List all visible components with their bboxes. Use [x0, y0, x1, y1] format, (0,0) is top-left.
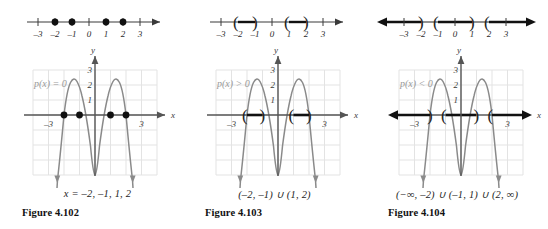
nl-tick-label: 0 [270, 29, 275, 39]
y-tick-label: 3 [87, 65, 93, 75]
nl-tick-label: 2 [304, 29, 309, 39]
nl-tick-label: 3 [320, 29, 326, 39]
x-axis-label: x [536, 110, 541, 120]
graph-y-tick-labels: 1 2 3 [270, 65, 276, 105]
number-line-4-103: ( ) ( ) –3 –2 –1 0 1 2 3 [183, 6, 366, 46]
y-axis-label: y [273, 46, 278, 55]
nl-tick-label: –1 [67, 29, 77, 39]
nl-tick-label: 0 [87, 29, 92, 39]
graph-y-tick-labels: 1 2 3 [87, 65, 93, 105]
y-axis-arrow [275, 56, 282, 64]
left-paren-icon: ( [242, 106, 248, 125]
figure-caption-4-103: Figure 4.103 [183, 207, 388, 218]
curve-right-arrow [313, 176, 319, 184]
number-line-tick-labels: –3 –2 –1 0 1 2 3 [399, 29, 509, 39]
figure-caption-4-102: Figure 4.102 [0, 207, 205, 218]
x-tick-label: 3 [321, 119, 327, 129]
nl-tick-label: 1 [470, 29, 475, 39]
figure-sheet: –3 –2 –1 0 1 2 3 [0, 0, 548, 229]
graph-condition-label: p(x) < 0 [399, 78, 433, 90]
y-tick-label: 2 [271, 80, 276, 90]
right-paren-icon: ) [474, 106, 480, 125]
y-tick-label: 2 [88, 80, 93, 90]
x-tick-label: –3 [409, 119, 420, 129]
nl-tick-label: –1 [250, 29, 260, 39]
graph-condition-label: p(x) > 0 [216, 78, 250, 90]
y-tick-label: 1 [271, 95, 276, 105]
figure-panel-4-103: ( ) ( ) –3 –2 –1 0 1 2 3 [183, 0, 366, 229]
figure-panel-4-104: ) ( ) ( –3 –2 –1 0 1 2 3 [366, 0, 548, 229]
figure-panel-4-102: –3 –2 –1 0 1 2 3 [0, 0, 183, 229]
solution-text-4-103: (–2, –1) ∪ (1, 2) [183, 188, 366, 200]
right-paren-icon: ) [306, 106, 312, 125]
graph-condition-label: p(x) = 0 [33, 78, 67, 90]
nl-tick-label: –2 [416, 29, 427, 39]
y-axis-arrow [458, 56, 465, 64]
nl-tick-label: 0 [453, 29, 458, 39]
y-axis-label: y [90, 46, 95, 55]
curve-left-arrow [420, 176, 426, 184]
number-line-svg-2: ) ( ) ( –3 –2 –1 0 1 2 3 [366, 6, 548, 46]
solution-text-4-102: x = –2, –1, 1, 2 [0, 188, 189, 199]
x-tick-label: –3 [226, 119, 237, 129]
curve-right-arrow [496, 176, 502, 184]
x-axis-label: x [170, 110, 175, 120]
curve-left-arrow [237, 176, 243, 184]
x-tick-label: 3 [504, 119, 510, 129]
graph-4-104: ) ( ) ( x y 1 2 3 –3 3 p(x) < 0 [366, 46, 548, 188]
nl-tick-label: 1 [104, 29, 109, 39]
graph-svg-1: ( ) ( ) x y 1 2 3 –3 3 p(x) > 0 [183, 46, 366, 188]
y-axis-label: y [456, 46, 461, 55]
x-axis-label: x [353, 110, 358, 120]
nl-tick-label: 3 [137, 29, 143, 39]
nl-tick-label: –3 [216, 29, 227, 39]
nl-tick-label: –2 [50, 29, 61, 39]
graph-4-103: ( ) ( ) x y 1 2 3 –3 3 p(x) > 0 [183, 46, 366, 188]
number-line-right-arrow [152, 19, 160, 26]
number-line-4-102: –3 –2 –1 0 1 2 3 [0, 6, 183, 46]
y-axis-arrow [92, 56, 99, 64]
nl-tick-label: 3 [503, 29, 509, 39]
left-paren-icon: ( [488, 106, 494, 125]
left-paren-icon: ( [441, 106, 447, 125]
y-tick-label: 3 [270, 65, 276, 75]
x-axis-arrow [157, 112, 165, 119]
y-tick-label: 1 [88, 95, 93, 105]
x-axis-right-arrow [522, 110, 532, 120]
number-line-4-104: ) ( ) ( –3 –2 –1 0 1 2 3 [366, 6, 548, 46]
graph-svg-0: x y 1 2 3 –3 3 p(x) = 0 [0, 46, 183, 188]
y-tick-label: 3 [453, 65, 459, 75]
nl-tick-label: –3 [33, 29, 44, 39]
figure-caption-4-104: Figure 4.104 [366, 207, 548, 218]
x-tick-label: 3 [138, 119, 144, 129]
right-paren-icon: ) [427, 106, 433, 125]
nl-tick-label: –3 [399, 29, 410, 39]
solution-text-4-104: (−∞, –2) ∪ (–1, 1) ∪ (2, ∞) [366, 188, 548, 200]
number-line-left-arrow [377, 18, 387, 27]
number-line-tick-labels: –3 –2 –1 0 1 2 3 [33, 29, 143, 39]
graph-x-tick-labels: –3 3 [409, 119, 510, 129]
x-tick-label: –3 [43, 119, 54, 129]
graph-4-102: x y 1 2 3 –3 3 p(x) = 0 [0, 46, 183, 188]
number-line-right-arrow [335, 19, 343, 26]
number-line-svg-0: –3 –2 –1 0 1 2 3 [0, 6, 183, 46]
y-tick-label: 1 [454, 95, 459, 105]
x-axis-left-arrow [388, 110, 398, 120]
y-tick-label: 2 [454, 80, 459, 90]
nl-tick-label: 2 [121, 29, 126, 39]
number-line-svg-1: ( ) ( ) –3 –2 –1 0 1 2 3 [183, 6, 366, 46]
curve-right-arrow [130, 176, 136, 184]
x-axis-arrow [340, 112, 348, 119]
nl-tick-label: –2 [233, 29, 244, 39]
nl-tick-label: 2 [487, 29, 492, 39]
number-line-right-arrow [526, 18, 536, 27]
left-paren-icon: ( [289, 106, 295, 125]
graph-x-tick-labels: –3 3 [43, 119, 144, 129]
curve-left-arrow [54, 176, 60, 184]
graph-svg-2: ) ( ) ( x y 1 2 3 –3 3 p(x) < 0 [366, 46, 548, 188]
graph-y-tick-labels: 1 2 3 [453, 65, 459, 105]
nl-tick-label: 1 [287, 29, 292, 39]
nl-tick-label: –1 [433, 29, 443, 39]
right-paren-icon: ) [260, 106, 266, 125]
